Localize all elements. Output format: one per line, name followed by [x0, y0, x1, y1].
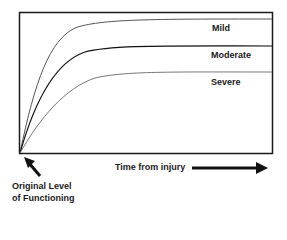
origin-label-line2: of Functioning — [12, 193, 74, 203]
origin-arrow-icon — [24, 157, 40, 176]
time-arrow-icon — [192, 162, 268, 174]
mild-label: Mild — [212, 23, 230, 33]
x-axis-label: Time from injury — [115, 162, 185, 172]
moderate-curve — [20, 46, 272, 153]
severe-label: Severe — [211, 77, 241, 87]
moderate-label: Moderate — [211, 50, 251, 60]
origin-label-line1: Original Level — [12, 181, 72, 191]
